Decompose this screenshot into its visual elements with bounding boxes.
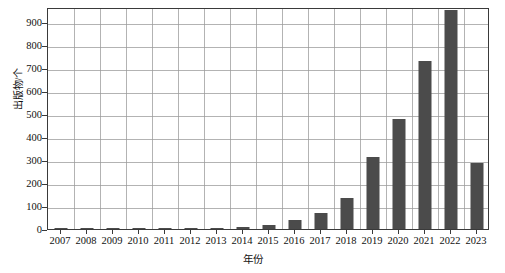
- x-axis-tick-mark: [372, 230, 373, 234]
- bar: [185, 228, 198, 229]
- bar: [211, 228, 224, 229]
- x-axis-tick-label: 2021: [414, 236, 435, 247]
- bar-slot: [48, 9, 74, 229]
- x-axis-tick-mark: [294, 230, 295, 234]
- bar: [107, 228, 120, 229]
- x-axis-tick-mark: [476, 230, 477, 234]
- y-axis-tick-label: 500: [26, 110, 42, 121]
- x-axis-tick-mark: [216, 230, 217, 234]
- x-axis-tick-mark: [164, 230, 165, 234]
- y-axis-tick-label: 200: [26, 179, 42, 190]
- x-axis-tick-mark: [86, 230, 87, 234]
- x-axis-tick-label: 2019: [362, 236, 383, 247]
- bar: [445, 10, 458, 229]
- bar: [81, 228, 94, 229]
- x-axis-tick-label: 2009: [102, 236, 123, 247]
- y-axis-tick-label: 700: [26, 64, 42, 75]
- bar: [341, 198, 354, 229]
- x-axis-tick-label: 2008: [76, 236, 97, 247]
- x-axis-tick-label: 2012: [180, 236, 201, 247]
- x-axis-tick-mark: [112, 230, 113, 234]
- bar-slot: [334, 9, 360, 229]
- bar-slot: [308, 9, 334, 229]
- x-axis-tick-label: 2007: [50, 236, 71, 247]
- x-axis-tick-mark: [268, 230, 269, 234]
- bar: [263, 225, 276, 229]
- bar-slot: [386, 9, 412, 229]
- x-axis-tick-mark: [60, 230, 61, 234]
- x-axis-tick-label: 2015: [258, 236, 279, 247]
- x-axis-tick-mark: [424, 230, 425, 234]
- x-axis-tick-label: 2017: [310, 236, 331, 247]
- x-axis-tick-label: 2023: [466, 236, 487, 247]
- bar-slot: [360, 9, 386, 229]
- bar: [393, 119, 406, 229]
- bar: [55, 228, 68, 229]
- y-axis-tick-labels: 0100200300400500600700800900: [0, 8, 47, 230]
- x-axis-tick-label: 2018: [336, 236, 357, 247]
- bar-slot: [230, 9, 256, 229]
- x-axis-title: 年份: [0, 251, 505, 266]
- bar: [289, 220, 302, 229]
- x-axis-tick-mark: [450, 230, 451, 234]
- x-axis-tick-label: 2022: [440, 236, 461, 247]
- y-axis-tick-label: 900: [26, 18, 42, 29]
- bar: [471, 163, 484, 229]
- y-axis-tick-label: 300: [26, 156, 42, 167]
- bar-chart: 出版物/个 0100200300400500600700800900 20072…: [0, 0, 505, 273]
- x-axis-tick-label: 2020: [388, 236, 409, 247]
- bar-series: [48, 9, 488, 229]
- x-axis-tick-mark: [242, 230, 243, 234]
- bar: [159, 228, 172, 229]
- x-axis-tick-mark: [398, 230, 399, 234]
- bar-slot: [282, 9, 308, 229]
- bar: [133, 228, 146, 229]
- bar-slot: [256, 9, 282, 229]
- y-axis-tick-label: 100: [26, 202, 42, 213]
- x-axis-tick-label: 2011: [154, 236, 175, 247]
- bar-slot: [152, 9, 178, 229]
- x-axis-tick-label: 2016: [284, 236, 305, 247]
- bar-slot: [412, 9, 438, 229]
- x-axis-tick-label: 2014: [232, 236, 253, 247]
- bar-slot: [74, 9, 100, 229]
- bar-slot: [126, 9, 152, 229]
- x-axis-tick-label: 2013: [206, 236, 227, 247]
- plot-area: [47, 8, 489, 230]
- bar: [237, 227, 250, 229]
- bar-slot: [438, 9, 464, 229]
- bar-slot: [178, 9, 204, 229]
- bar-slot: [100, 9, 126, 229]
- bar: [419, 61, 432, 229]
- y-axis-tick-label: 600: [26, 87, 42, 98]
- x-axis-tick-label: 2010: [128, 236, 149, 247]
- bar-slot: [204, 9, 230, 229]
- bar: [367, 157, 380, 229]
- x-axis-tick-mark: [190, 230, 191, 234]
- bar-slot: [464, 9, 490, 229]
- y-axis-tick-label: 800: [26, 41, 42, 52]
- x-axis-tick-mark: [320, 230, 321, 234]
- x-axis-tick-mark: [346, 230, 347, 234]
- x-axis-tick-labels: 2007200820092010201120122013201420152016…: [47, 230, 489, 252]
- bar: [315, 213, 328, 229]
- y-axis-tick-label: 400: [26, 133, 42, 144]
- x-axis-tick-mark: [138, 230, 139, 234]
